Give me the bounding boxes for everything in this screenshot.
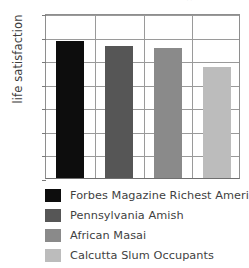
bar	[56, 41, 84, 178]
legend-item: African Masai	[45, 225, 249, 245]
bar-chart: ·· life satisfaction 01234567 Forbes Mag…	[0, 0, 249, 268]
y-axis-tick-mark	[42, 109, 46, 110]
y-axis-tick-mark	[42, 39, 46, 40]
legend-color-swatch	[45, 209, 61, 222]
legend-item: Forbes Magazine Richest Americans	[45, 185, 249, 205]
plot-area: 01234567	[45, 14, 240, 179]
gridline-vertical	[144, 15, 145, 178]
legend-color-swatch	[45, 249, 61, 262]
legend-item-label: Forbes Magazine Richest Americans	[70, 189, 249, 202]
legend-item-label: Calcutta Slum Occupants	[70, 249, 214, 262]
legend-color-swatch	[45, 189, 61, 202]
legend-item: Calcutta Slum Occupants	[45, 245, 249, 265]
y-axis-tick-mark	[42, 180, 46, 181]
bar	[203, 67, 231, 178]
clipped-title-artifact: ··	[186, 0, 194, 4]
gridline-vertical	[95, 15, 96, 178]
bar	[105, 46, 133, 178]
legend-color-swatch	[45, 229, 61, 242]
y-axis-tick-mark	[42, 133, 46, 134]
legend-item-label: African Masai	[70, 229, 146, 242]
y-axis-tick-mark	[42, 62, 46, 63]
y-axis-tick-mark	[42, 15, 46, 16]
y-axis-title: life satisfaction	[11, 0, 25, 129]
gridline-horizontal	[46, 15, 239, 16]
gridline-vertical	[192, 15, 193, 178]
gridline-horizontal	[46, 39, 239, 40]
legend-item: Pennsylvania Amish	[45, 205, 249, 225]
legend-item-label: Pennsylvania Amish	[70, 209, 184, 222]
y-axis-tick-mark	[42, 86, 46, 87]
chart-legend: Forbes Magazine Richest AmericansPennsyl…	[45, 185, 249, 265]
y-axis-tick-mark	[42, 156, 46, 157]
bar	[154, 48, 182, 178]
